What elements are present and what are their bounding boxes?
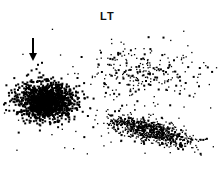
- arrow-down-icon: [28, 38, 38, 62]
- scatter-plot: [0, 0, 218, 172]
